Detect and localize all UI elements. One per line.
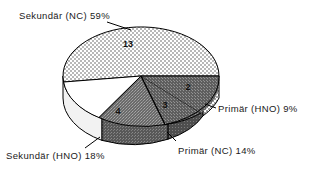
callout-label-primaer-nc: Primär (NC) 14% [178, 146, 256, 156]
pie-top-faces [63, 27, 219, 127]
slice-sekundaer-nc [63, 27, 219, 82]
slice-value-primaer-hno: 2 [185, 82, 190, 92]
pie-chart-figure: 13 4 3 2 Sekundär (NC) 59% Sekundär (HNO… [0, 0, 313, 173]
callout-label-sekundaer-hno: Sekundär (HNO) 18% [6, 151, 105, 161]
slice-value-primaer-nc: 3 [162, 100, 167, 110]
slice-value-sekundaer-nc: 13 [123, 39, 133, 49]
leader-line-sekundaer-hno [85, 137, 100, 148]
pie-chart-canvas: 13 4 3 2 [0, 0, 313, 173]
callout-label-primaer-hno: Primär (HNO) 9% [218, 104, 298, 114]
slice-value-sekundaer-hno: 4 [115, 106, 120, 116]
callout-label-sekundaer-nc: Sekundär (NC) 59% [19, 11, 110, 21]
